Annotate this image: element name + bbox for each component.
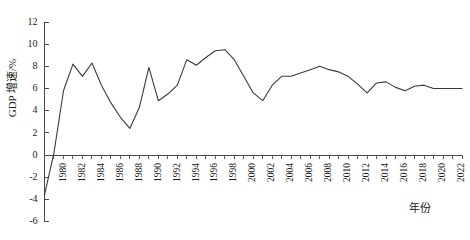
x-tick-label: 1998 <box>228 163 238 182</box>
y-axis: 121086420-2-4-6 <box>28 16 49 227</box>
x-tick-label: 2012 <box>361 163 371 182</box>
x-tick-label: 1986 <box>115 163 125 182</box>
x-tick-label: 1994 <box>191 163 201 182</box>
x-axis-title: 年份 <box>409 201 431 214</box>
x-tick-label: 2020 <box>437 163 447 182</box>
y-tick-label: 0 <box>33 149 38 160</box>
x-tick-label: 1990 <box>153 163 163 182</box>
x-tick-label: 2006 <box>304 163 314 182</box>
x-tick-label: 2022 <box>456 163 466 182</box>
y-tick-label: 4 <box>33 104 38 115</box>
y-tick-label: 8 <box>33 60 38 71</box>
x-tick-label: 2014 <box>380 163 390 182</box>
y-tick-label: 6 <box>33 82 38 93</box>
chart-canvas: 121086420-2-4-6 198019821984198619881990… <box>0 0 470 240</box>
x-tick-label: 2016 <box>399 163 409 182</box>
y-tick-label: -4 <box>29 193 37 204</box>
y-tick-label: -2 <box>29 171 37 182</box>
x-tick-label: 1996 <box>209 163 219 182</box>
x-tick-label: 1988 <box>134 163 144 182</box>
x-tick-label: 2018 <box>418 163 428 182</box>
x-tick-label: 2000 <box>247 163 257 182</box>
y-tick-label: 2 <box>33 127 38 138</box>
x-axis-ticks <box>45 155 463 159</box>
y-axis-title: GDP 增速/% <box>5 59 18 118</box>
x-axis: 1980198219841986198819901992199419961998… <box>45 155 467 182</box>
gdp-growth-chart-figure: 121086420-2-4-6 198019821984198619881990… <box>0 0 470 240</box>
x-axis-tick-labels: 1980198219841986198819901992199419961998… <box>58 163 467 182</box>
y-tick-label: 10 <box>28 38 38 49</box>
x-tick-label: 1982 <box>77 163 87 182</box>
y-tick-label: 12 <box>28 16 38 27</box>
x-tick-label: 2002 <box>266 163 276 182</box>
y-axis-tick-labels: 121086420-2-4-6 <box>28 16 38 227</box>
y-tick-label: -6 <box>29 215 37 226</box>
x-tick-label: 2008 <box>323 163 333 182</box>
x-tick-label: 1992 <box>172 163 182 182</box>
x-tick-label: 2010 <box>342 163 352 182</box>
x-tick-label: 1980 <box>58 163 68 182</box>
x-tick-label: 1984 <box>96 163 106 182</box>
x-tick-label: 2004 <box>285 163 295 182</box>
